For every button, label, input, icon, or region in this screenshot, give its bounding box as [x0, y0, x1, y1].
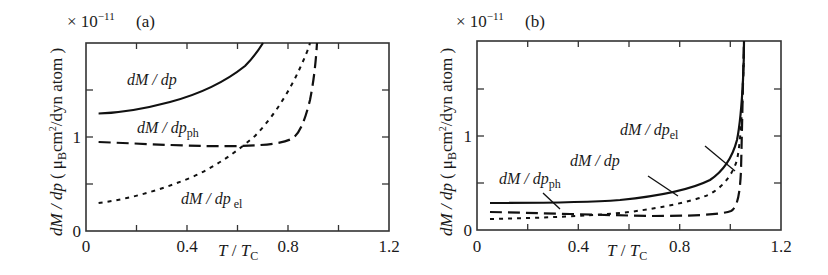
x-tick-label: 1.2: [378, 237, 399, 256]
y-tick-label: 1: [73, 128, 82, 147]
x-axis-title: T / TC: [218, 241, 258, 263]
x-tick-label: 0: [473, 237, 482, 256]
panel-b: 0 0.4 0.8 1.2 0 1 T / TC × 10−11 (b) dM …: [437, 10, 792, 263]
curve-electronic: [490, 41, 744, 219]
label-electronic: dM / dpel: [181, 190, 243, 211]
x-tick-label: 1.2: [770, 237, 791, 256]
x-tick-label: 0.8: [669, 237, 690, 256]
y-axis-title: dM / dp( μBcm2/dyn atom ): [437, 48, 459, 236]
curve-phonon: [490, 41, 744, 216]
label-total: dM / dp: [570, 152, 620, 170]
x-tick-label: 0.4: [176, 237, 198, 256]
axis-multiplier: × 10−11: [456, 10, 504, 31]
x-axis-title: T / TC: [607, 241, 647, 263]
y-axis-title: dM / dp( μBcm2/dyn atom ): [47, 48, 69, 236]
axis-multiplier: × 10−11: [67, 10, 115, 31]
label-electronic: dM / dpel: [620, 121, 679, 142]
figure-canvas: 0 0.4 0.8 1.2 0 1 T / TC × 10−11 (a) dM …: [0, 0, 828, 275]
x-tick-label: 0: [82, 237, 91, 256]
label-phonon: dM / dpph: [137, 119, 199, 140]
panel-tag: (a): [136, 12, 155, 31]
curve-phonon: [99, 43, 317, 146]
pointer-ph: [543, 193, 560, 209]
y-tick-label: 0: [464, 221, 473, 240]
x-tick-label: 0.4: [568, 237, 590, 256]
curve-electronic: [99, 43, 310, 203]
panel-tag: (b): [525, 12, 545, 31]
label-phonon: dM / dpph: [499, 170, 561, 191]
panel-a: 0 0.4 0.8 1.2 0 1 T / TC × 10−11 (a) dM …: [47, 10, 400, 263]
label-total: dM / dp: [127, 71, 177, 89]
y-ticks: [86, 90, 389, 184]
y-tick-label: 1: [464, 127, 473, 146]
curve-total: [99, 43, 263, 114]
y-tick-label: 0: [73, 222, 82, 241]
x-tick-label: 0.8: [277, 237, 298, 256]
